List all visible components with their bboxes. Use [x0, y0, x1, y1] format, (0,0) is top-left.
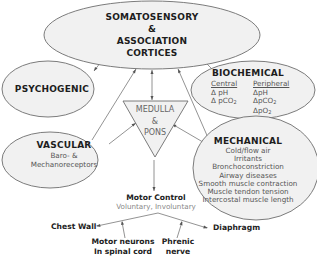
motor-neurons-line1: Motor neurons — [92, 237, 155, 247]
arrowhead-icon — [178, 69, 181, 73]
phrenic-nerve-label: Phrenic nerve — [162, 237, 194, 257]
edge-motor-chestwall — [97, 213, 158, 226]
arrowhead-icon — [203, 226, 208, 229]
chest-wall-label: Chest Wall — [51, 222, 96, 232]
arrowhead-icon — [180, 221, 183, 226]
cortices-line1: SOMATOSENSORY — [106, 11, 199, 23]
cortices-line4: CORTICES — [106, 47, 199, 59]
medulla-line1: MEDULLA — [136, 104, 175, 116]
edge-vascular-medulla — [109, 123, 136, 144]
arrowhead-icon — [121, 221, 124, 225]
vascular-node: VASCULAR Baro- & Mechanoreceptors — [31, 140, 98, 169]
diaphragm-label: Diaphragm — [213, 223, 260, 233]
vascular-title: VASCULAR — [31, 140, 98, 150]
arrowhead-icon — [151, 96, 154, 100]
medulla-line2: & — [136, 116, 175, 128]
arrowhead-icon — [96, 224, 101, 227]
biochemical-peripheral-item: ΔpO2 — [253, 107, 289, 117]
mechanical-title: MECHANICAL — [199, 136, 298, 146]
phrenic-line1: Phrenic — [162, 237, 194, 247]
biochemical-central: Central Δ pH Δ pCO2 — [211, 80, 237, 107]
arrowhead-icon — [153, 187, 156, 191]
mechanical-node: MECHANICAL Cold/flow air Irritants Bronc… — [199, 136, 298, 204]
mechanical-item: Intercostal muscle length — [199, 196, 298, 204]
motor-control-node: Motor Control Voluntary, Involuntary — [116, 193, 196, 211]
medulla-node: MEDULLA & PONS — [136, 104, 175, 139]
psychogenic-title: PSYCHOGENIC — [15, 84, 89, 94]
motor-control-subtitle: Voluntary, Involuntary — [116, 203, 196, 211]
biochemical-central-item: Δ pCO2 — [211, 97, 237, 107]
motor-neurons-label: Motor neurons In spinal cord — [92, 237, 155, 257]
cortices-line2: & — [106, 23, 199, 35]
vascular-line2: Mechanoreceptors — [31, 161, 98, 170]
psychogenic-node: PSYCHOGENIC — [15, 84, 89, 94]
cortices-node: SOMATOSENSORY & ASSOCIATION CORTICES — [106, 11, 199, 59]
medulla-line3: PONS — [136, 127, 175, 139]
phrenic-line2: nerve — [162, 247, 194, 257]
arrowhead-icon — [133, 69, 137, 74]
arrowhead-icon — [151, 70, 154, 74]
edge-motor-diaphragm — [158, 213, 207, 228]
cortices-line3: ASSOCIATION — [106, 35, 199, 47]
biochemical-title: BIOCHEMICAL — [212, 68, 284, 78]
biochemical-peripheral: Peripheral ΔpH ΔpCO2 ΔpO2 — [253, 80, 289, 116]
motor-neurons-line2: In spinal cord — [92, 247, 155, 257]
